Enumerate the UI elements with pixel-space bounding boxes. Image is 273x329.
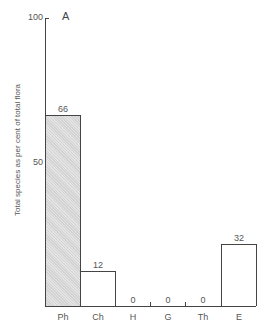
panel-label: A: [62, 10, 69, 22]
bar-ph: [45, 115, 81, 306]
life-form-spectrum-chart: A Total species as per cent of total flo…: [0, 0, 273, 329]
category-ph: Ph: [45, 312, 81, 322]
category-h: H: [115, 312, 151, 322]
bar-ch: [80, 271, 116, 306]
y-tick-label-100: 100: [19, 12, 43, 22]
bar-value-g: 0: [150, 295, 186, 305]
bar-value-h: 0: [115, 295, 151, 305]
y-axis-label: Total species as per cent of total flora: [13, 84, 22, 216]
bar-value-e: 32: [221, 233, 257, 243]
category-g: G: [150, 312, 186, 322]
category-e: E: [221, 312, 257, 322]
category-th: Th: [185, 312, 221, 322]
y-tick-label-50: 50: [19, 157, 43, 167]
bar-e: [221, 244, 257, 306]
bar-value-th: 0: [185, 295, 221, 305]
x-axis: [45, 306, 256, 307]
bar-value-ch: 12: [80, 260, 116, 270]
y-tick-100: [45, 18, 49, 19]
bar-value-ph: 66: [45, 104, 81, 114]
category-ch: Ch: [80, 312, 116, 322]
